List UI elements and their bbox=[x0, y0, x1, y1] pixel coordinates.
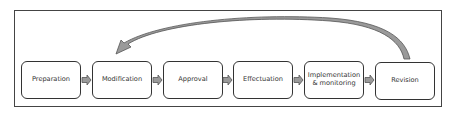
step-label: Effectuation bbox=[243, 76, 283, 84]
arrow-right-icon bbox=[152, 74, 163, 86]
step-effectuation: Effectuation bbox=[233, 61, 293, 99]
step-approval: Approval bbox=[163, 61, 223, 99]
arrow-right-icon bbox=[81, 74, 92, 86]
step-label: Preparation bbox=[32, 76, 70, 84]
step-label: Revision bbox=[391, 77, 419, 85]
step-label: Approval bbox=[178, 76, 207, 84]
step-label: Implementation & monitoring bbox=[305, 72, 363, 87]
arrow-right-icon bbox=[364, 74, 375, 86]
step-label: Modification bbox=[102, 76, 142, 84]
step-modification: Modification bbox=[92, 61, 152, 99]
step-revision: Revision bbox=[375, 62, 435, 100]
arrow-right-icon bbox=[293, 74, 304, 86]
step-preparation: Preparation bbox=[21, 61, 81, 99]
arrow-right-icon bbox=[222, 74, 233, 86]
step-implementation-monitoring: Implementation & monitoring bbox=[304, 61, 364, 99]
